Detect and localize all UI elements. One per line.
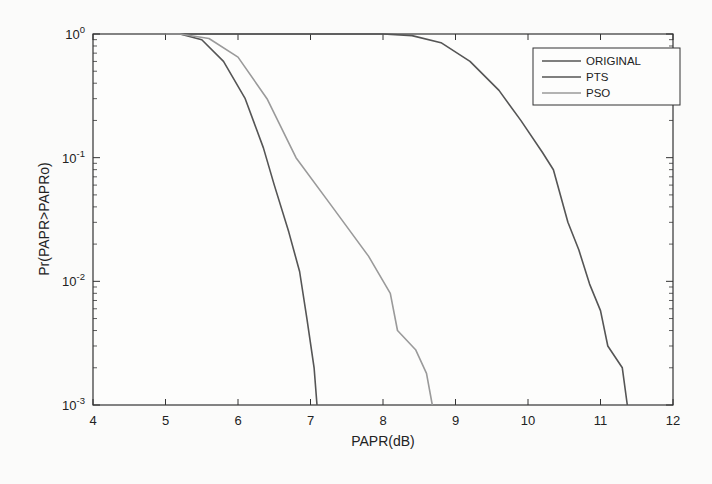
x-tick-label: 10 — [521, 413, 535, 428]
x-tick-label: 12 — [666, 413, 680, 428]
x-axis-label: PAPR(dB) — [351, 433, 415, 449]
x-tick-label: 4 — [89, 413, 96, 428]
y-axis-label: Pr(PAPR>PAPRo) — [36, 162, 52, 275]
x-tick-label: 5 — [162, 413, 169, 428]
legend-label: PSO — [586, 87, 610, 99]
y-tick-label: 100 — [65, 24, 85, 42]
ccdf-chart: 45678910111210010-110-210-3 ORIGINALPTSP… — [0, 0, 712, 484]
legend-label: PTS — [586, 71, 609, 83]
legend: ORIGINALPTSPSO — [533, 48, 680, 105]
y-tick-label: 10-1 — [62, 148, 85, 166]
y-tick-label: 10-2 — [62, 271, 85, 289]
legend-label: ORIGINAL — [586, 55, 642, 67]
x-tick-label: 8 — [379, 413, 386, 428]
y-tick-label: 10-3 — [62, 395, 85, 413]
x-tick-label: 9 — [452, 413, 459, 428]
x-tick-label: 7 — [307, 413, 314, 428]
x-tick-label: 6 — [234, 413, 241, 428]
x-tick-label: 11 — [594, 413, 608, 428]
